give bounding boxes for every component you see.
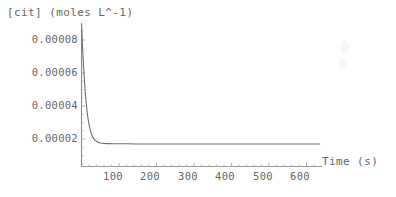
x-axis-tick-marks — [89, 163, 314, 167]
chart-plot: [cit] (moles L^-1) 0.00008 0.00006 0.000… — [0, 0, 396, 197]
plot-canvas — [0, 0, 396, 197]
data-series-line — [82, 24, 320, 144]
